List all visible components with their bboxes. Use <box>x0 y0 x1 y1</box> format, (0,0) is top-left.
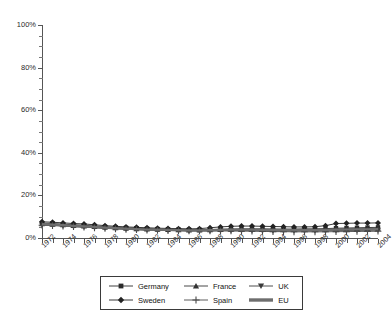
data-point-square <box>176 227 180 231</box>
data-point-triangle-up <box>333 226 339 231</box>
data-point-triangle-up <box>249 227 255 232</box>
data-point-square <box>313 227 317 231</box>
data-point-diamond <box>118 297 124 303</box>
data-point-plus <box>249 228 256 235</box>
legend-label-germany: Germany <box>135 282 169 291</box>
y-tick-label: 0% <box>2 234 36 242</box>
data-point-diamond <box>228 223 234 229</box>
data-point-square <box>250 227 254 231</box>
data-point-diamond <box>375 220 381 226</box>
data-point-triangle-up <box>165 227 171 232</box>
data-point-square <box>92 224 96 228</box>
x-tick-label: 1984 <box>166 233 183 250</box>
legend-row: Germany France UK <box>101 279 302 293</box>
data-point-square <box>166 227 170 231</box>
legend-label-sweden: Sweden <box>135 296 165 305</box>
data-point-square <box>355 226 359 230</box>
legend-swatch-spain <box>182 294 210 306</box>
legend-label-france: France <box>210 282 236 291</box>
data-point-plus <box>91 224 98 231</box>
data-point-diamond <box>134 224 140 230</box>
y-minor-tick <box>39 206 43 207</box>
data-point-triangle-up <box>81 223 87 228</box>
series-uk <box>39 222 381 233</box>
data-point-plus <box>312 228 319 235</box>
data-point-square <box>134 226 138 230</box>
data-point-square <box>218 227 222 231</box>
data-point-diamond <box>123 224 129 230</box>
series-line <box>42 224 378 230</box>
y-minor-tick <box>39 132 43 133</box>
data-point-square <box>292 227 296 231</box>
data-point-triangle-down <box>186 228 192 233</box>
y-minor-tick <box>39 142 43 143</box>
x-tick-label: 1996 <box>292 233 309 250</box>
y-major-tick <box>38 25 43 26</box>
data-point-triangle-up <box>323 226 329 231</box>
x-tick-label: 2000 <box>334 233 351 250</box>
legend-swatch-france <box>182 280 210 292</box>
data-point-diamond <box>71 221 77 227</box>
data-point-triangle-down <box>144 228 150 233</box>
series-line <box>42 223 378 230</box>
legend-item-germany[interactable]: Germany <box>101 279 182 293</box>
data-point-plus <box>333 228 340 235</box>
data-point-square <box>323 226 327 230</box>
data-point-triangle-down <box>207 228 213 233</box>
legend-item-sweden[interactable]: Sweden <box>101 293 182 307</box>
data-point-square <box>334 226 338 230</box>
data-point-square <box>82 223 86 227</box>
data-point-diamond <box>323 223 329 229</box>
data-point-triangle-up <box>123 226 129 231</box>
x-tick-label: 1978 <box>103 233 120 250</box>
data-point-triangle-down <box>270 228 276 233</box>
y-tick-label: 60% <box>2 106 36 114</box>
y-tick-label: 100% <box>2 21 36 29</box>
legend-swatch-uk <box>247 280 275 292</box>
data-point-diamond <box>291 224 297 230</box>
chart-legend: Germany France UK Sweden Spain EU <box>100 276 303 310</box>
data-point-diamond <box>60 220 66 226</box>
y-minor-tick <box>39 89 43 90</box>
data-point-triangle-down <box>291 229 297 234</box>
data-point-triangle-up <box>291 227 297 232</box>
data-point-plus <box>270 228 277 235</box>
data-point-triangle-down <box>71 224 77 229</box>
data-point-diamond <box>50 219 56 225</box>
data-point-square <box>103 225 107 229</box>
legend-item-eu[interactable]: EU <box>247 293 302 307</box>
x-tick-label: 1982 <box>145 233 162 250</box>
data-point-plus <box>81 224 88 231</box>
data-point-diamond <box>92 222 98 228</box>
line-chart: 0%20%40%60%80%100% 197219741976197819801… <box>0 0 392 329</box>
y-tick-label: 80% <box>2 64 36 72</box>
data-point-diamond <box>281 224 287 230</box>
y-minor-tick <box>39 36 43 37</box>
x-tick-label: 1974 <box>61 233 78 250</box>
data-point-square <box>197 227 201 231</box>
legend-item-uk[interactable]: UK <box>247 279 302 293</box>
legend-swatch-eu <box>247 294 275 306</box>
data-point-triangle-down <box>50 223 56 228</box>
y-minor-tick <box>39 174 43 175</box>
legend-item-spain[interactable]: Spain <box>182 293 247 307</box>
x-tick-label: 1988 <box>208 233 225 250</box>
y-axis-labels: 0%20%40%60%80%100% <box>0 0 36 260</box>
data-point-diamond <box>302 224 308 230</box>
series-line <box>42 222 378 229</box>
x-tick-label: 1994 <box>271 233 288 250</box>
data-point-plus <box>60 223 67 230</box>
data-point-triangle-down <box>92 225 98 230</box>
data-point-square <box>50 221 54 225</box>
data-point-square <box>239 227 243 231</box>
data-point-square <box>124 226 128 230</box>
y-major-tick <box>38 153 43 154</box>
x-tick-label: 1980 <box>124 233 141 250</box>
y-minor-tick <box>39 185 43 186</box>
y-minor-tick <box>39 163 43 164</box>
x-tick-label: 2002 <box>355 233 372 250</box>
data-point-diamond <box>113 223 119 229</box>
legend-item-france[interactable]: France <box>182 279 247 293</box>
y-minor-tick <box>39 78 43 79</box>
data-point-square <box>119 284 124 289</box>
